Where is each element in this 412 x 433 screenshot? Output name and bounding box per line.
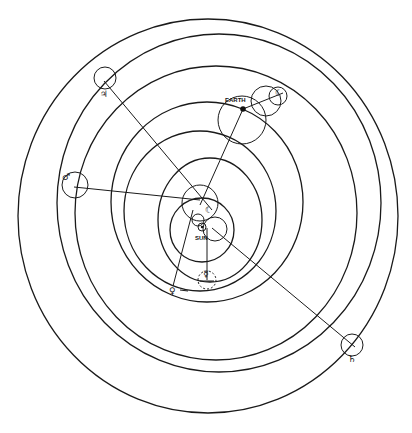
saturn-symbol: ♄ (348, 354, 356, 364)
venus-symbol: ♀ (169, 286, 176, 296)
inner-upper-circle (182, 185, 218, 221)
sun-dot (201, 226, 203, 228)
jupiter-symbol: ♃ (100, 89, 108, 99)
orbit-5 (124, 131, 276, 291)
earth-circle (218, 96, 266, 144)
orbit-6 (158, 158, 262, 282)
jupiter-epicycle (94, 67, 116, 89)
ray-jupiter (104, 81, 212, 210)
moon-symbol: ☾ (275, 88, 283, 98)
orbit-outer-3 (75, 66, 357, 360)
orbit-diagram: ♃ ♂ ♄ EARTH ☾ SUN ☾ ♀ ☿ (0, 0, 412, 433)
mercury-symbol: ☿ (203, 269, 209, 279)
sun-label: SUN (195, 235, 208, 241)
orbit-7 (170, 198, 234, 262)
ray-mars (74, 187, 200, 200)
ray-saturn (212, 228, 355, 347)
mars-symbol: ♂ (62, 172, 70, 182)
earth-label: EARTH (225, 97, 246, 103)
earth-dot (240, 106, 246, 112)
ray-earth (200, 109, 243, 205)
center-moon-symbol: ☾ (205, 205, 213, 215)
